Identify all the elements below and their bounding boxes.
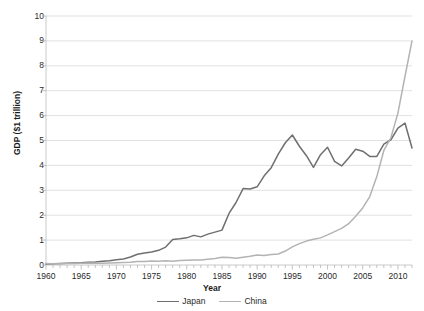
legend-label: China xyxy=(244,296,266,306)
gdp-line-chart: GDP ($1 trillion) 012345678910 196019651… xyxy=(0,0,424,311)
x-tick-label: 1990 xyxy=(237,272,277,281)
x-tick-label: 1965 xyxy=(61,272,101,281)
legend-swatch-japan xyxy=(157,301,179,302)
x-tick-label: 1975 xyxy=(132,272,172,281)
plot-canvas xyxy=(0,0,424,311)
x-tick-label: 1960 xyxy=(26,272,66,281)
x-tick-label: 1970 xyxy=(96,272,136,281)
x-tick-label: 2005 xyxy=(343,272,383,281)
legend-swatch-china xyxy=(219,301,241,302)
x-axis-title: Year xyxy=(0,283,424,293)
chart-legend: JapanChina xyxy=(0,296,424,306)
series-line-china xyxy=(46,41,412,264)
legend-label: Japan xyxy=(182,296,205,306)
x-tick-label: 1995 xyxy=(272,272,312,281)
x-tick-label: 2000 xyxy=(308,272,348,281)
x-tick-label: 1985 xyxy=(202,272,242,281)
legend-item-japan[interactable]: Japan xyxy=(157,296,205,306)
legend-item-china[interactable]: China xyxy=(219,296,266,306)
x-tick-label: 1980 xyxy=(167,272,207,281)
series-line-japan xyxy=(46,123,412,264)
x-tick-label: 2010 xyxy=(378,272,418,281)
